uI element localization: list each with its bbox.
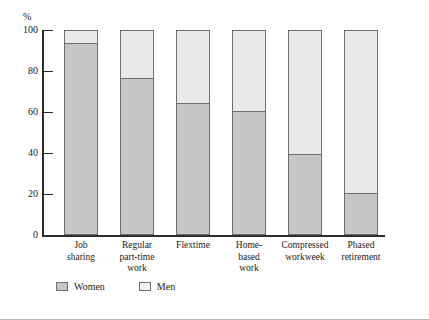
x-axis-category-label: Compressed workweek [277,240,333,263]
x-axis-category-label: Flextime [165,240,221,252]
y-axis-unit-label: % [23,12,31,22]
bar-segment-men[interactable] [177,31,209,105]
men-swatch [139,282,151,291]
y-tick-100: 100 [44,30,53,31]
stacked-bar[interactable] [176,30,210,235]
y-tick-40: 40 [44,153,53,154]
y-tick-60: 60 [44,112,53,113]
legend-label-men: Men [157,281,175,292]
bar-segment-women[interactable] [65,43,97,234]
stacked-bar[interactable] [64,30,98,235]
x-axis-line [42,235,385,237]
y-tick-label-60: 60 [28,106,38,117]
y-tick-label-0: 0 [33,229,38,240]
bar-segment-women[interactable] [121,78,153,234]
stacked-bar[interactable] [344,30,378,235]
bar-segment-men[interactable] [121,31,153,80]
bar-segment-women[interactable] [177,103,209,234]
x-axis-category-label: Phased retirement [333,240,389,263]
women-swatch [56,282,68,291]
y-tick-label-100: 100 [23,24,38,35]
stacked-bar[interactable] [288,30,322,235]
chart-figure: % 100 80 60 40 20 0 Job sharingRegular p… [0,0,429,320]
bar-segment-women[interactable] [289,154,321,234]
plot-area: % 100 80 60 40 20 0 Job sharingRegular p… [42,30,382,235]
y-tick-label-40: 40 [28,147,38,158]
y-axis-line [42,30,44,235]
bar-segment-men[interactable] [289,31,321,156]
y-tick-80: 80 [44,71,53,72]
bar-segment-men[interactable] [345,31,377,195]
bar-segment-men[interactable] [233,31,265,113]
y-tick-label-80: 80 [28,65,38,76]
stacked-bar[interactable] [232,30,266,235]
y-tick-0: 0 [44,235,53,236]
bar-segment-women[interactable] [233,111,265,234]
legend-item-women[interactable]: Women [56,281,105,292]
y-tick-label-20: 20 [28,188,38,199]
x-axis-category-label: Regular part-time work [109,240,165,275]
x-axis-category-label: Job sharing [53,240,109,263]
stacked-bar[interactable] [120,30,154,235]
y-tick-20: 20 [44,194,53,195]
x-axis-category-label: Home- based work [221,240,277,275]
chart-legend: Women Men [56,281,175,292]
bar-segment-women[interactable] [345,193,377,234]
legend-label-women: Women [74,281,105,292]
legend-item-men[interactable]: Men [139,281,175,292]
